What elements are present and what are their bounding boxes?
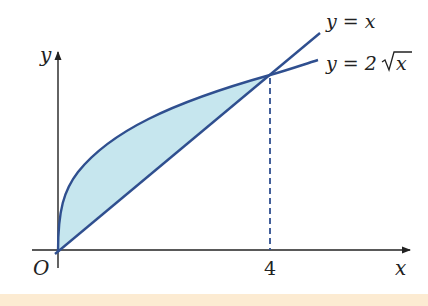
x-axis-label: x <box>395 256 406 280</box>
origin-label: O <box>33 256 49 280</box>
footer-strip <box>0 294 428 306</box>
svg-text:x: x <box>396 52 407 74</box>
label-y-equals-x: y = x <box>325 10 376 32</box>
y-axis-label: y <box>39 43 52 67</box>
x-tick-label-4: 4 <box>264 257 276 279</box>
label-y-equals-2-root-x: y = 2 x <box>325 52 412 74</box>
diagram-svg: y x O 4 y = x y = 2 x <box>0 0 428 306</box>
diagram-canvas: y x O 4 y = x y = 2 x <box>0 0 428 306</box>
line-y-equals-x <box>55 33 320 254</box>
svg-text:y = 2: y = 2 <box>325 52 377 74</box>
